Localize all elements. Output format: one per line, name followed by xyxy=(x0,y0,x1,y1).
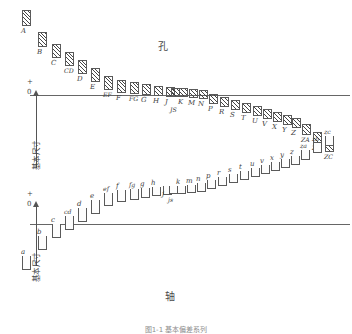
shaft-zone-label: p xyxy=(206,172,210,180)
hole-zone-label: G xyxy=(141,96,147,104)
hole-tolerance-zone xyxy=(209,94,218,104)
shaft-zone-label: b xyxy=(37,228,41,236)
shaft-tolerance-zone xyxy=(271,162,280,171)
hole-zone-label: JS xyxy=(170,106,177,113)
shaft-zone-label: x xyxy=(270,154,274,162)
shaft-tolerance-zone xyxy=(229,174,238,183)
shaft-tolerance-zone xyxy=(251,168,260,177)
hole-zone-label: N xyxy=(198,100,204,108)
shaft-zero-mark: 0 xyxy=(27,200,31,208)
hole-tolerance-zone xyxy=(189,89,198,98)
hole-tolerance-zone xyxy=(220,97,229,107)
shaft-tolerance-zone xyxy=(78,208,87,222)
hole-zone-label: C xyxy=(51,59,56,67)
shaft-tolerance-zone xyxy=(240,171,249,180)
shaft-tolerance-zone xyxy=(177,186,186,194)
hole-tolerance-zone xyxy=(179,88,188,97)
shaft-plus-mark: + xyxy=(27,190,33,198)
shaft-tolerance-zone xyxy=(291,156,300,165)
shaft-zone-label: zc xyxy=(324,128,331,135)
figure-caption: 图1-1 基本偏差系列 xyxy=(0,324,352,334)
shaft-diagram-panel: + 0 基本尺寸 轴 abccddeefffgghjjskmnprstuvxyz… xyxy=(0,176,352,316)
hole-tolerance-zone xyxy=(242,103,251,113)
hole-zone-label: R xyxy=(219,108,224,116)
shaft-tolerance-zone xyxy=(91,200,100,214)
shaft-tolerance-zone xyxy=(130,189,139,200)
hole-zone-label: D xyxy=(77,75,83,83)
hole-zone-label: M xyxy=(188,99,195,107)
hole-tolerance-zone xyxy=(263,109,272,119)
hole-zone-label: X xyxy=(272,123,277,131)
hole-tolerance-zone xyxy=(292,118,301,128)
shaft-zone-label: t xyxy=(239,163,242,171)
hole-tolerance-zone xyxy=(117,80,126,93)
hole-tolerance-zone xyxy=(231,100,240,110)
shaft-zone-label: y xyxy=(280,151,284,159)
shaft-tolerance-zone xyxy=(301,150,310,160)
hole-tolerance-zone xyxy=(273,112,282,122)
shaft-zone-label: n xyxy=(196,175,201,183)
hole-zone-label: B xyxy=(37,48,42,56)
hole-zone-label: FG xyxy=(129,95,138,102)
hole-zone-label: T xyxy=(241,114,246,122)
shaft-tolerance-zone xyxy=(281,159,290,168)
hole-zone-label: A xyxy=(21,27,26,35)
shaft-tolerance-zone xyxy=(325,136,334,146)
shaft-zone-label: k xyxy=(176,178,180,186)
hole-zone-label: CD xyxy=(64,67,74,74)
hole-tolerance-zone xyxy=(253,106,262,116)
hole-title: 孔 xyxy=(158,38,168,53)
shaft-zone-label: c xyxy=(51,216,55,224)
shaft-zone-label: e xyxy=(90,192,94,200)
hole-plus-mark: + xyxy=(27,78,33,86)
shaft-title: 轴 xyxy=(165,288,175,303)
shaft-zone-label: f xyxy=(116,182,119,190)
hole-zone-label: Z xyxy=(291,129,296,137)
shaft-zone-label: u xyxy=(250,160,255,168)
hole-tolerance-zone xyxy=(302,124,311,135)
hole-zone-label: H xyxy=(153,97,159,105)
hole-tolerance-zone xyxy=(78,60,87,74)
shaft-tolerance-zone xyxy=(52,224,61,238)
hole-zone-label: U xyxy=(252,117,258,125)
shaft-zone-label: z xyxy=(290,148,294,156)
shaft-tolerance-zone xyxy=(117,190,126,202)
hole-zone-label: E xyxy=(90,83,95,91)
hole-tolerance-zone xyxy=(38,32,47,47)
hole-tolerance-zone xyxy=(142,84,151,95)
shaft-tolerance-zone xyxy=(65,216,74,230)
hole-diagram-panel: + 0 基本尺寸 孔 ABCCDDEEFFFGGHJJSKMNPRSTUVXYZ… xyxy=(0,0,352,180)
shaft-tolerance-zone xyxy=(207,180,216,189)
hole-zone-label: EF xyxy=(103,91,112,98)
shaft-tolerance-zone xyxy=(313,143,322,153)
hole-tolerance-zone xyxy=(154,86,163,96)
shaft-zone-label: j xyxy=(162,190,164,198)
hole-tolerance-zone xyxy=(52,44,61,58)
hole-zone-label: J xyxy=(165,98,168,106)
hole-zone-label: F xyxy=(116,94,121,102)
shaft-zero-line xyxy=(30,224,350,225)
hole-axis-label: 基本尺寸 xyxy=(30,140,41,170)
shaft-zone-label: m xyxy=(186,177,193,185)
hole-zone-label: V xyxy=(262,120,267,128)
hole-zone-label: Y xyxy=(282,126,287,134)
hole-tolerance-zone xyxy=(130,82,139,94)
hole-tolerance-zone xyxy=(199,90,208,99)
hole-tolerance-zone xyxy=(283,115,292,125)
hole-tolerance-zone xyxy=(91,68,100,82)
shaft-tolerance-zone xyxy=(38,236,47,250)
shaft-tolerance-zone xyxy=(261,165,270,174)
shaft-tolerance-zone xyxy=(141,188,150,198)
shaft-zone-label: d xyxy=(77,200,81,208)
hole-zero-mark: 0 xyxy=(27,88,31,96)
hole-zone-label: K xyxy=(178,98,183,106)
shaft-zone-label: zb xyxy=(312,135,319,142)
shaft-axis-arrow-icon xyxy=(33,201,39,207)
shaft-zone-label: g xyxy=(140,180,144,188)
hole-zone-label: ZC xyxy=(324,153,333,160)
shaft-zone-label: h xyxy=(151,179,156,187)
hole-zone-label: S xyxy=(230,111,235,119)
shaft-zone-label: r xyxy=(217,169,220,177)
shaft-tolerance-zone xyxy=(104,193,113,206)
